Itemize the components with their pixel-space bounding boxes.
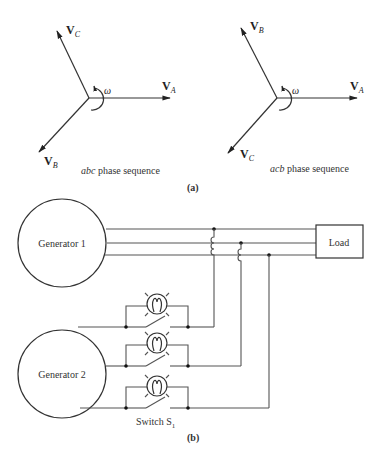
lamp-glow-icon (145, 293, 169, 316)
lamp-bypass-wire (126, 345, 188, 366)
synchronization-diagram: VA VC VB ω abc phase sequence VA VB VC ω… (0, 0, 387, 456)
vector-c-arrow (228, 98, 277, 153)
vector-b-arrow (241, 28, 277, 98)
vector-a-label: VA (350, 79, 364, 95)
phasor-diagram-acb: VA VB VC ω acb phase sequence (228, 19, 364, 174)
lamp-switch-unit-c (124, 375, 190, 410)
lamp-filament-icon (153, 380, 162, 394)
rotation-arrow-icon (282, 86, 283, 90)
phasor-diagram-abc: VA VC VB ω abc phase sequence (39, 23, 176, 176)
vector-c-arrow (57, 31, 89, 98)
drop-line-a (211, 229, 214, 327)
rotation-arc-icon (91, 88, 104, 110)
vector-b-label: VB (250, 19, 264, 35)
lamp-icon (147, 294, 167, 314)
switch-s1-label: Switch S1 (136, 416, 176, 430)
junction-dot (186, 325, 190, 329)
vector-b-arrow (39, 98, 89, 152)
omega-label: ω (104, 85, 111, 96)
lamp-filament-icon (153, 298, 162, 312)
lamp-bypass-wire (126, 387, 188, 408)
junction-dot (186, 406, 190, 410)
generator-2-label: Generator 2 (38, 369, 85, 380)
vector-b-label: VB (44, 154, 58, 170)
lamp-icon (147, 333, 167, 353)
rotation-arrow-icon (94, 86, 95, 90)
lamp-icon (147, 376, 167, 396)
lamp-glow-icon (145, 332, 169, 355)
generator-1-label: Generator 1 (38, 238, 85, 249)
junction-dot (186, 364, 190, 368)
vector-a-label: VA (162, 79, 176, 95)
switch-blade-icon (146, 355, 165, 366)
rotation-arc-icon (279, 88, 292, 110)
lamp-switch-unit-a (124, 293, 190, 329)
switch-blade-icon (146, 316, 165, 327)
vector-c-label: VC (66, 23, 81, 39)
junction-dot (124, 364, 128, 368)
part-b-label: (b) (187, 432, 199, 444)
omega-label: ω (292, 85, 299, 96)
vector-c-label: VC (240, 147, 255, 163)
lamp-glow-icon (145, 375, 169, 397)
lamp-switch-unit-b (124, 332, 190, 368)
acb-caption: acb phase sequence (270, 163, 349, 174)
load-label: Load (329, 237, 350, 248)
part-a-label: (a) (187, 182, 199, 194)
junction-dot (124, 325, 128, 329)
drop-line-b (238, 243, 241, 366)
lamp-bypass-wire (126, 306, 188, 327)
junction-dot (124, 406, 128, 410)
synchronizing-circuit: Generator 1 Load Generator 2 (18, 199, 363, 430)
switch-blade-icon (146, 397, 165, 408)
abc-caption: abc phase sequence (81, 165, 160, 176)
lamp-filament-icon (153, 337, 162, 351)
